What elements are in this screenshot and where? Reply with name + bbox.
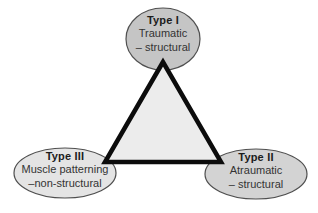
type3-ellipse <box>14 148 116 198</box>
triangle-shape <box>105 62 221 162</box>
diagram-canvas: Type I Traumatic – structural Type III M… <box>0 0 318 213</box>
classification-triangle-diagram <box>0 0 318 213</box>
